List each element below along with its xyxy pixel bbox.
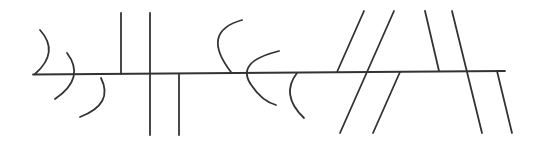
diagram-svg [0, 0, 540, 141]
arc-1 [35, 30, 49, 74]
arc-6 [290, 73, 304, 118]
arc-3 [80, 78, 105, 117]
arc-2 [55, 53, 74, 99]
arc-group [35, 20, 304, 118]
slant-right-3 [373, 72, 400, 133]
arc-4 [218, 20, 242, 72]
arc-5 [247, 51, 279, 105]
slant-left-1 [425, 11, 439, 71]
line-diagram [0, 0, 540, 141]
baseline [33, 71, 505, 75]
slant-right-1 [337, 11, 364, 72]
slant-left-3 [497, 71, 512, 133]
